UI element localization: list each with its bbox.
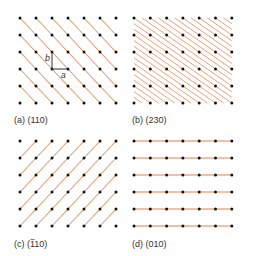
lattice-point bbox=[149, 17, 152, 20]
lattice-points bbox=[133, 140, 234, 228]
lattice-point bbox=[198, 85, 201, 88]
plane-lines-110 bbox=[20, 18, 116, 103]
lattice-point bbox=[115, 208, 118, 211]
lattice-point bbox=[181, 68, 184, 71]
lattice-point bbox=[99, 208, 102, 211]
lattice-point bbox=[83, 51, 86, 54]
plane-line bbox=[134, 92, 150, 103]
lattice-point bbox=[35, 208, 38, 211]
lattice-point bbox=[19, 102, 22, 105]
lattice-point bbox=[35, 157, 38, 160]
lattice-point bbox=[181, 225, 184, 228]
plane-line bbox=[142, 18, 232, 80]
panel-b: (b) (230) bbox=[132, 17, 233, 126]
plane-lines-bar110 bbox=[20, 141, 116, 226]
lattice-point bbox=[133, 140, 136, 143]
lattice-point bbox=[149, 102, 152, 105]
lattice-point bbox=[19, 225, 22, 228]
lattice-point bbox=[51, 174, 54, 177]
lattice-point bbox=[181, 51, 184, 54]
lattice-point bbox=[214, 225, 217, 228]
lattice-point bbox=[133, 225, 136, 228]
lattice-point bbox=[35, 68, 38, 71]
lattice-point bbox=[51, 85, 54, 88]
lattice-point bbox=[165, 191, 168, 194]
plane-line bbox=[183, 18, 232, 52]
lattice-point bbox=[214, 85, 217, 88]
lattice-point bbox=[19, 68, 22, 71]
lattice-point bbox=[19, 191, 22, 194]
lattice-point bbox=[67, 34, 70, 37]
caption-b: (b) (230) bbox=[132, 115, 167, 125]
lattice-point bbox=[83, 208, 86, 211]
lattice-point bbox=[99, 174, 102, 177]
lattice-point bbox=[181, 208, 184, 211]
lattice-point bbox=[165, 225, 168, 228]
lattice-point bbox=[115, 85, 118, 88]
label-b: b bbox=[45, 53, 50, 63]
lattice-point bbox=[67, 51, 70, 54]
plane-line bbox=[134, 69, 183, 103]
lattice-point bbox=[133, 102, 136, 105]
plane-line bbox=[20, 86, 36, 103]
lattice-point bbox=[133, 34, 136, 37]
lattice-point bbox=[83, 191, 86, 194]
lattice-point bbox=[83, 174, 86, 177]
lattice-point bbox=[165, 157, 168, 160]
lattice-point bbox=[230, 174, 233, 177]
lattice-point bbox=[19, 157, 22, 160]
lattice-point bbox=[67, 174, 70, 177]
lattice-point bbox=[230, 208, 233, 211]
lattice-point bbox=[115, 225, 118, 228]
lattice-point bbox=[35, 34, 38, 37]
plane-line bbox=[134, 41, 224, 103]
lattice-point bbox=[181, 140, 184, 143]
lattice-point bbox=[133, 157, 136, 160]
plane-lines-010 bbox=[134, 141, 232, 226]
plane-line bbox=[134, 80, 167, 103]
plane-line bbox=[20, 141, 100, 226]
lattice-point bbox=[149, 174, 152, 177]
lattice-point bbox=[19, 140, 22, 143]
lattice-point bbox=[165, 34, 168, 37]
lattice-point bbox=[230, 225, 233, 228]
lattice-point bbox=[165, 51, 168, 54]
plane-line bbox=[158, 18, 231, 69]
lattice-point bbox=[149, 85, 152, 88]
plane-line bbox=[134, 75, 175, 103]
plane-line bbox=[134, 58, 199, 103]
lattice-point bbox=[230, 34, 233, 37]
lattice-point bbox=[83, 68, 86, 71]
lattice-point bbox=[51, 157, 54, 160]
lattice-point bbox=[35, 51, 38, 54]
plane-line bbox=[20, 141, 36, 158]
label-a: a bbox=[61, 70, 66, 80]
lattice-point bbox=[19, 34, 22, 37]
lattice-point bbox=[230, 68, 233, 71]
lattice-point bbox=[214, 208, 217, 211]
lattice-point bbox=[214, 140, 217, 143]
lattice-point bbox=[67, 157, 70, 160]
lattice-point bbox=[115, 174, 118, 177]
lattice-point bbox=[149, 34, 152, 37]
lattice-point bbox=[19, 174, 22, 177]
lattice-point bbox=[214, 157, 217, 160]
lattice-point bbox=[181, 85, 184, 88]
lattice-point bbox=[214, 102, 217, 105]
lattice-point bbox=[51, 191, 54, 194]
lattice-point bbox=[181, 191, 184, 194]
panel-d: (d) (010) bbox=[132, 140, 233, 250]
lattice-point bbox=[165, 17, 168, 20]
lattice-point bbox=[133, 17, 136, 20]
lattice-point bbox=[181, 17, 184, 20]
lattice-point bbox=[230, 191, 233, 194]
lattice-point bbox=[149, 51, 152, 54]
lattice-point bbox=[214, 51, 217, 54]
lattice-point bbox=[67, 102, 70, 105]
plane-line bbox=[68, 175, 116, 226]
lattice-point bbox=[99, 225, 102, 228]
lattice-planes-figure: ab (a) (110) (b) (230) (c) (110) (d) (01… bbox=[0, 0, 254, 256]
plane-line bbox=[216, 18, 232, 29]
lattice-point bbox=[115, 68, 118, 71]
plane-lines-230 bbox=[134, 18, 232, 103]
